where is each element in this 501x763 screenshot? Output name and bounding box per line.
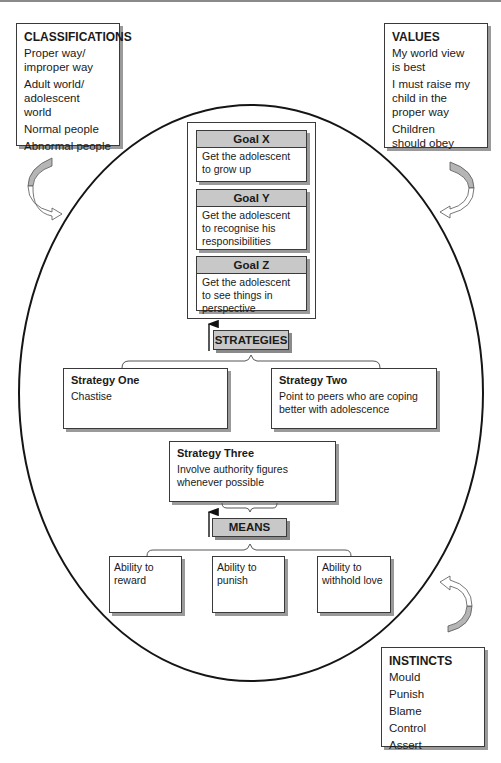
- connectors-layer: [0, 0, 501, 763]
- brace-icon: [147, 544, 351, 556]
- curved-arrow-left-icon: [28, 158, 62, 220]
- curved-arrow-right-icon: [440, 162, 474, 218]
- brace-icon: [122, 355, 380, 368]
- brace-icon: [222, 503, 277, 512]
- curved-arrow-bottom-icon: [440, 576, 472, 632]
